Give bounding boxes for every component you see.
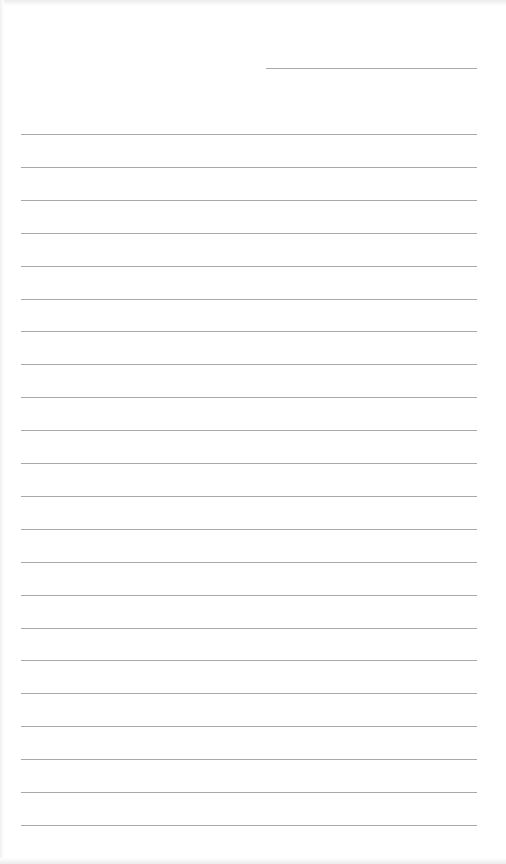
ruled-line [21,562,477,563]
ruled-line [21,759,477,760]
ruled-line [21,628,477,629]
ruled-line [21,397,477,398]
ruled-line [21,430,477,431]
header-name-line [266,68,477,69]
ruled-line [21,233,477,234]
ruled-line [21,825,477,826]
ruled-line [21,200,477,201]
ruled-line [21,299,477,300]
ruled-line [21,595,477,596]
ruled-line [21,529,477,530]
ruled-line [21,463,477,464]
ruled-line [21,792,477,793]
ruled-line [21,266,477,267]
page-top-edge [0,0,506,6]
ruled-line [21,693,477,694]
ruled-line [21,660,477,661]
page-left-edge [0,0,4,864]
ruled-line [21,134,477,135]
ruled-line [21,331,477,332]
ruled-line [21,496,477,497]
ruled-line [21,726,477,727]
page-bottom-edge [0,858,506,864]
ruled-line [21,364,477,365]
ruled-line [21,167,477,168]
